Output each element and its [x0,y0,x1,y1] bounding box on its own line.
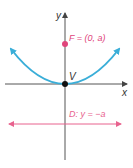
directrix-label: D: y = −a [69,109,106,119]
x-axis-label: x [121,87,128,98]
vertex-label: V [69,71,77,82]
focus-point [62,41,68,47]
y-axis-label: y [55,10,62,21]
vertex-point [62,81,68,87]
parabola-diagram: y x V F = (0, a) D: y = −a [0,0,133,168]
focus-label: F = (0, a) [69,33,106,43]
